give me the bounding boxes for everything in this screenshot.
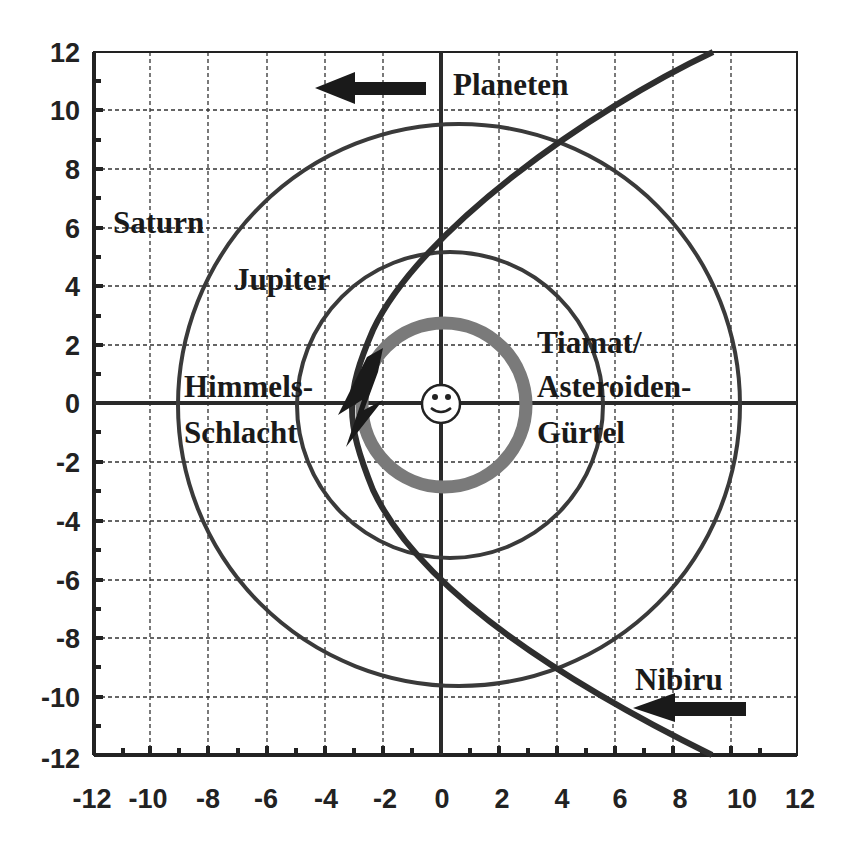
x-tick-label: 12: [785, 784, 815, 814]
y-tick-label: -8: [56, 624, 80, 654]
y-tick-labels: 12 10 8 6 4 2 0 -2 -4 -6 -8 -10 -12: [41, 38, 80, 774]
x-tick-label: -10: [128, 784, 167, 814]
y-tick-label: 4: [65, 272, 80, 302]
x-tick-label: 10: [727, 784, 757, 814]
solar-system-diagram: 12 10 8 6 4 2 0 -2 -4 -6 -8 -10 -12 -12 …: [0, 0, 845, 851]
y-tick-label: 0: [65, 389, 80, 419]
y-tick-label: 12: [50, 38, 80, 68]
y-tick-label: 2: [65, 331, 80, 361]
x-tick-label: 6: [612, 784, 627, 814]
label-guertel: Gürtel: [537, 415, 625, 450]
x-tick-label: -12: [72, 784, 111, 814]
x-tick-label: -2: [373, 784, 397, 814]
x-tick-label: 4: [554, 784, 569, 814]
x-tick-label: 2: [494, 784, 509, 814]
y-tick-label: -6: [56, 566, 80, 596]
x-tick-label: -8: [196, 784, 220, 814]
y-tick-label: 8: [65, 155, 80, 185]
label-himmels: Himmels-: [184, 369, 313, 404]
y-tick-label: 6: [65, 214, 80, 244]
label-tiamat: Tiamat/: [537, 325, 642, 360]
y-tick-label: -4: [56, 507, 80, 537]
label-schlacht: Schlacht: [184, 415, 298, 450]
label-nibiru: Nibiru: [635, 662, 723, 697]
label-jupiter: Jupiter: [234, 262, 331, 297]
x-tick-label: -6: [254, 784, 278, 814]
smiley-face-icon: [422, 385, 460, 423]
x-tick-labels: -12 -10 -8 -6 -4 -2 0 2 4 6 8 10 12: [72, 784, 815, 814]
x-tick-label: -4: [314, 784, 338, 814]
y-tick-label: 10: [50, 96, 80, 126]
x-tick-label: 0: [434, 784, 449, 814]
label-planeten: Planeten: [453, 67, 568, 102]
label-asteroiden: Asteroiden-: [537, 369, 691, 404]
planeten-arrow-icon: [315, 72, 426, 104]
y-tick-label: -10: [41, 683, 80, 713]
x-tick-label: 8: [672, 784, 687, 814]
y-tick-label: -12: [41, 744, 80, 774]
label-saturn: Saturn: [113, 205, 204, 240]
y-tick-label: -2: [56, 448, 80, 478]
